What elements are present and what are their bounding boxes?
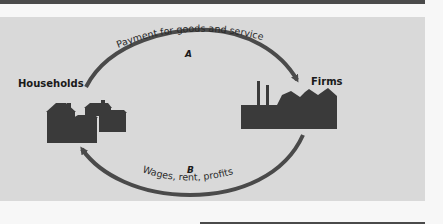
circular-flow-diagram: Payment for goods and services Wages, re… (0, 0, 443, 224)
households-house-icon (46, 100, 127, 143)
flow-b-letter: B (187, 165, 194, 175)
firms-factory-icon (241, 81, 337, 129)
bottom-border-band (200, 222, 425, 224)
firms-label: Firms (311, 76, 343, 87)
households-label: Households (18, 78, 84, 89)
flow-a-letter: A (185, 49, 192, 59)
flow-a-label: Payment for goods and services (0, 0, 265, 50)
